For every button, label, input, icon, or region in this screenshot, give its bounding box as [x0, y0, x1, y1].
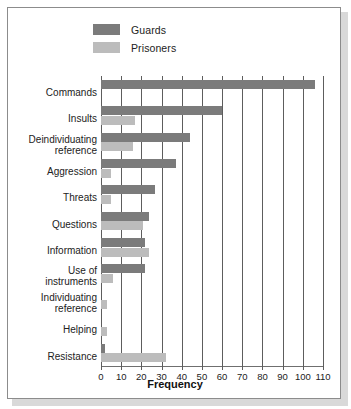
chart-plot-area: 0102030405060708090100110: [101, 76, 323, 366]
category-axis-labels: CommandsInsultsDeindividuating reference…: [10, 76, 97, 366]
bar-guards: [101, 133, 190, 142]
bar-prisoners: [101, 353, 166, 362]
legend-swatch-prisoners: [93, 42, 120, 53]
category-label: Use of instruments: [13, 265, 97, 287]
category-label: Aggression: [13, 166, 97, 177]
x-axis-tick: [242, 366, 243, 370]
x-axis-title-text: Frequency: [147, 378, 203, 390]
gridline: [283, 76, 284, 366]
gridline: [182, 76, 183, 366]
x-axis-title: Frequency: [8, 378, 342, 390]
bar-guards: [101, 344, 105, 353]
legend-item-guards: Guards: [93, 22, 176, 37]
x-axis-tick: [222, 366, 223, 370]
bar-guards: [101, 80, 315, 89]
x-axis-tick: [182, 366, 183, 370]
gridline: [303, 76, 304, 366]
bar-prisoners: [101, 274, 113, 283]
category-label: Information: [13, 245, 97, 256]
legend-item-prisoners: Prisoners: [93, 40, 176, 55]
bar-guards: [101, 185, 155, 194]
category-label: Commands: [13, 87, 97, 98]
bar-guards: [101, 238, 145, 247]
legend-label-guards: Guards: [131, 24, 166, 36]
gridline: [242, 76, 243, 366]
bar-guards: [101, 106, 222, 115]
bar-prisoners: [101, 142, 133, 151]
gridline: [323, 76, 324, 366]
bar-prisoners: [101, 169, 111, 178]
x-axis-tick: [121, 366, 122, 370]
gridline: [262, 76, 263, 366]
bar-prisoners: [101, 327, 107, 336]
x-axis-tick: [323, 366, 324, 370]
bar-prisoners: [101, 300, 107, 309]
category-label: Individuating reference: [13, 292, 97, 314]
gridline: [202, 76, 203, 366]
bar-prisoners: [101, 116, 135, 125]
legend-swatch-guards: [93, 24, 120, 35]
bar-prisoners: [101, 221, 143, 230]
chart-legend: Guards Prisoners: [93, 22, 176, 58]
category-label: Helping: [13, 324, 97, 335]
gridline: [222, 76, 223, 366]
chart-figure-frame: Guards Prisoners CommandsInsultsDeindivi…: [7, 7, 341, 399]
bar-prisoners: [101, 248, 149, 257]
category-label: Threats: [13, 192, 97, 203]
bar-prisoners: [101, 195, 111, 204]
x-axis-tick: [101, 366, 102, 370]
x-axis-tick: [283, 366, 284, 370]
bar-guards: [101, 159, 176, 168]
bar-guards: [101, 264, 145, 273]
x-axis-tick: [162, 366, 163, 370]
legend-label-prisoners: Prisoners: [131, 42, 176, 54]
category-label: Deindividuating reference: [13, 134, 97, 156]
category-label: Questions: [13, 219, 97, 230]
category-label: Resistance: [13, 351, 97, 362]
bar-guards: [101, 212, 149, 221]
x-axis-tick: [141, 366, 142, 370]
gridline: [162, 76, 163, 366]
x-axis-tick: [202, 366, 203, 370]
x-axis-tick: [303, 366, 304, 370]
category-label: Insults: [13, 113, 97, 124]
x-axis-line: [101, 366, 324, 367]
x-axis-tick: [262, 366, 263, 370]
